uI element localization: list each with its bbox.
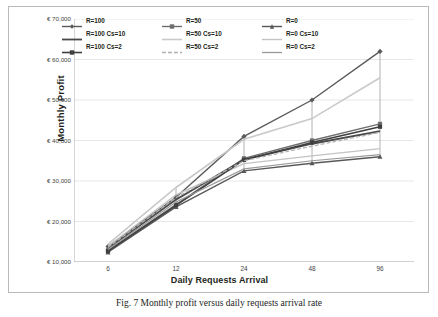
- y-tick-label: € 40,000: [47, 138, 71, 144]
- legend-label: R=0 Cs=10: [286, 31, 318, 37]
- legend-item[interactable]: R=50: [161, 17, 261, 26]
- legend-label: R=50 Cs=2: [186, 44, 218, 50]
- series-marker: [106, 249, 110, 253]
- x-tick-label: 24: [240, 265, 247, 272]
- figure-caption: Fig. 7 Monthly profit versus daily reque…: [0, 298, 438, 308]
- x-tick-label: 6: [106, 265, 110, 272]
- legend-swatch-icon: [61, 17, 83, 26]
- chart-legend: R=100R=50R=0R=100 Cs=10R=50 Cs=10R=0 Cs=…: [61, 17, 361, 52]
- y-tick-label: € 10,000: [47, 259, 71, 265]
- legend-swatch-icon: [61, 30, 83, 39]
- legend-item[interactable]: R=100 Cs=2: [61, 43, 161, 52]
- x-tick-label: 12: [172, 265, 179, 272]
- legend-label: R=100: [86, 18, 105, 24]
- x-tick-label: 96: [376, 265, 383, 272]
- series-marker: [174, 203, 178, 207]
- plot-area: [74, 19, 414, 262]
- legend-swatch-icon: [161, 43, 183, 52]
- y-tick-label: € 50,000: [47, 97, 71, 103]
- y-tick-label: € 60,000: [47, 57, 71, 63]
- series-line: [108, 149, 380, 247]
- legend-item[interactable]: R=100: [61, 17, 161, 26]
- legend-label: R=50: [186, 18, 201, 24]
- legend-item[interactable]: R=0: [261, 17, 361, 26]
- y-tick-label: € 20,000: [47, 219, 71, 225]
- legend-label: R=50 Cs=10: [186, 31, 222, 37]
- legend-swatch-icon: [161, 30, 183, 39]
- legend-item[interactable]: R=0 Cs=2: [261, 43, 361, 52]
- legend-swatch-icon: [261, 43, 283, 52]
- figure-container: Monthly Profit € 10,000€ 20,000€ 30,000€…: [0, 0, 438, 317]
- y-tick-label: € 30,000: [47, 178, 71, 184]
- chart-svg: [74, 19, 414, 262]
- series-marker: [310, 140, 314, 144]
- legend-swatch-icon: [161, 17, 183, 26]
- legend-label: R=100 Cs=10: [86, 31, 125, 37]
- legend-label: R=0 Cs=2: [286, 44, 315, 50]
- chart-frame: Monthly Profit € 10,000€ 20,000€ 30,000€…: [8, 6, 429, 293]
- legend-swatch-icon: [261, 30, 283, 39]
- legend-item[interactable]: R=100 Cs=10: [61, 30, 161, 39]
- legend-swatch-icon: [61, 43, 83, 52]
- legend-swatch-icon: [261, 17, 283, 26]
- legend-item[interactable]: R=0 Cs=10: [261, 30, 361, 39]
- legend-item[interactable]: R=50 Cs=2: [161, 43, 261, 52]
- legend-label: R=100 Cs=2: [86, 44, 122, 50]
- x-axis-title: Daily Requests Arrival: [9, 275, 430, 285]
- legend-label: R=0: [286, 18, 298, 24]
- series-line: [108, 155, 380, 250]
- legend-item[interactable]: R=50 Cs=10: [161, 30, 261, 39]
- series-marker: [378, 125, 382, 129]
- x-tick-label: 48: [308, 265, 315, 272]
